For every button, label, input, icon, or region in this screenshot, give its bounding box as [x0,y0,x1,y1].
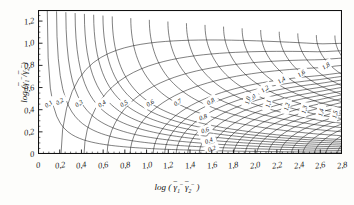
x-tick-label: 0,6 [97,159,109,171]
x-tick-label: 1,6 [206,159,218,171]
figure-nomogram: 3,23,02,82,62,42,22,01,81,61,41,21,00,80… [0,0,354,205]
x-tick-label: 2,8 [336,159,348,171]
x-tick-label: 2,6 [314,159,326,171]
x-tick-label: 0 [35,160,41,171]
x-tick-label: 2,4 [293,159,305,171]
x-tick-label: 1,4 [184,159,196,171]
plot-area: 3,23,02,82,62,42,22,01,81,61,41,21,00,80… [38,10,342,154]
x-tick-label: 1,0 [141,159,153,171]
x-axis-title: log ( γ–1– γ–2– ) [0,181,354,194]
x-tick-label: 2,0 [249,159,261,171]
y-tick-label: 1,2 [23,15,35,27]
x-tick-label: 0,4 [76,159,88,171]
x-tick-label: 1,2 [162,159,174,171]
y-axis-title: log (γ–1–/γ–2–) [18,34,31,130]
y-tick-label: 0 [29,149,35,160]
curve-canvas: 3,23,02,82,62,42,22,01,81,61,41,21,00,80… [38,10,342,154]
x-tick-label: 0,2 [54,159,66,171]
x-tick-label: 1,8 [228,159,240,171]
x-tick-label: 2,2 [271,159,283,171]
x-tick-label: 0,8 [119,159,131,171]
